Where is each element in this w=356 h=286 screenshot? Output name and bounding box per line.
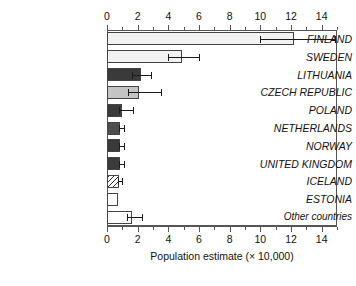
- error-bar-cap-iceland-high: [122, 178, 123, 185]
- tick-top-2: [138, 25, 139, 30]
- population-bar-chart: 0022446688101012121414 FINLANDSWEDENLITH…: [0, 0, 356, 286]
- tick-top-7: [214, 27, 215, 30]
- category-label-estonia: ESTONIA: [253, 193, 356, 205]
- error-bar-cap-iceland-low: [118, 178, 119, 185]
- tick-label-top-4: 4: [155, 10, 181, 22]
- tick-bottom-11: [276, 227, 277, 230]
- error-bar-cap-other-countries-high: [142, 214, 143, 221]
- bar-norway: [107, 139, 120, 152]
- x-axis-title: Population estimate (× 10,000): [107, 250, 337, 262]
- tick-label-bottom-10: 10: [247, 233, 273, 245]
- error-bar-cap-netherlands-low: [119, 125, 120, 132]
- tick-bottom-10: [260, 227, 261, 232]
- tick-label-bottom-6: 6: [186, 233, 212, 245]
- category-label-norway: NORWAY: [253, 140, 356, 152]
- error-bar-cap-sweden-low: [168, 54, 169, 61]
- error-bar-line-czech-republic: [128, 92, 160, 93]
- top-axis-line: [107, 30, 337, 31]
- tick-bottom-6: [199, 227, 200, 232]
- tick-top-11: [276, 27, 277, 30]
- tick-label-bottom-0: 0: [94, 233, 120, 245]
- error-bar-cap-other-countries-low: [127, 214, 128, 221]
- tick-label-bottom-2: 2: [125, 233, 151, 245]
- error-bar-line-sweden: [168, 57, 199, 58]
- bar-united-kingdom: [107, 157, 120, 170]
- category-label-iceland: ICELAND: [253, 175, 356, 187]
- error-bar-cap-sweden-high: [199, 54, 200, 61]
- tick-label-top-6: 6: [186, 10, 212, 22]
- tick-top-8: [230, 25, 231, 30]
- tick-top-5: [184, 27, 185, 30]
- tick-bottom-9: [245, 227, 246, 230]
- tick-top-3: [153, 27, 154, 30]
- tick-top-1: [122, 27, 123, 30]
- tick-label-bottom-12: 12: [278, 233, 304, 245]
- tick-bottom-13: [306, 227, 307, 230]
- category-label-netherlands: NETHERLANDS: [253, 122, 356, 134]
- tick-top-15: [337, 27, 338, 30]
- tick-label-top-0: 0: [94, 10, 120, 22]
- tick-top-0: [107, 25, 108, 30]
- tick-top-4: [168, 25, 169, 30]
- error-bar-cap-lithuania-low: [132, 72, 133, 79]
- tick-top-14: [322, 25, 323, 30]
- error-bar-cap-czech-republic-high: [161, 89, 162, 96]
- tick-bottom-7: [214, 227, 215, 230]
- error-bar-line-other-countries: [127, 217, 142, 218]
- error-bar-cap-czech-republic-low: [128, 89, 129, 96]
- tick-top-6: [199, 25, 200, 30]
- bar-estonia: [107, 193, 118, 206]
- tick-label-top-2: 2: [125, 10, 151, 22]
- error-bar-line-finland: [260, 39, 335, 40]
- category-label-united-kingdom: UNITED KINGDOM: [253, 158, 356, 170]
- error-bar-cap-lithuania-high: [151, 72, 152, 79]
- tick-label-bottom-8: 8: [217, 233, 243, 245]
- tick-bottom-3: [153, 227, 154, 230]
- error-bar-cap-norway-low: [119, 143, 120, 150]
- error-bar-cap-finland-high: [335, 36, 336, 43]
- error-bar-cap-united-kingdom-high: [124, 161, 125, 168]
- tick-bottom-5: [184, 227, 185, 230]
- tick-label-bottom-4: 4: [155, 233, 181, 245]
- category-label-czech-republic: CZECH REPUBLIC: [253, 86, 356, 98]
- error-bar-line-poland: [119, 110, 133, 111]
- tick-top-10: [260, 25, 261, 30]
- tick-top-9: [245, 27, 246, 30]
- tick-label-top-8: 8: [217, 10, 243, 22]
- error-bar-cap-poland-high: [133, 107, 134, 114]
- tick-label-top-14: 14: [309, 10, 335, 22]
- error-bar-cap-poland-low: [119, 107, 120, 114]
- category-label-sweden: SWEDEN: [253, 51, 356, 63]
- tick-bottom-4: [168, 227, 169, 232]
- tick-bottom-1: [122, 227, 123, 230]
- tick-bottom-8: [230, 227, 231, 232]
- tick-bottom-15: [337, 227, 338, 230]
- category-label-lithuania: LITHUANIA: [253, 69, 356, 81]
- error-bar-cap-netherlands-high: [124, 125, 125, 132]
- tick-bottom-14: [322, 227, 323, 232]
- error-bar-cap-united-kingdom-low: [119, 161, 120, 168]
- error-bar-line-lithuania: [132, 75, 152, 76]
- bar-netherlands: [107, 122, 120, 135]
- tick-bottom-0: [107, 227, 108, 232]
- tick-top-13: [306, 27, 307, 30]
- tick-label-top-10: 10: [247, 10, 273, 22]
- category-label-poland: POLAND: [253, 104, 356, 116]
- tick-bottom-2: [138, 227, 139, 232]
- bottom-axis-line: [107, 226, 337, 227]
- tick-top-12: [291, 25, 292, 30]
- category-label-other-countries: Other countries: [253, 211, 356, 223]
- tick-bottom-12: [291, 227, 292, 232]
- error-bar-cap-norway-high: [124, 143, 125, 150]
- error-bar-cap-finland-low: [260, 36, 261, 43]
- tick-label-bottom-14: 14: [309, 233, 335, 245]
- tick-label-top-12: 12: [278, 10, 304, 22]
